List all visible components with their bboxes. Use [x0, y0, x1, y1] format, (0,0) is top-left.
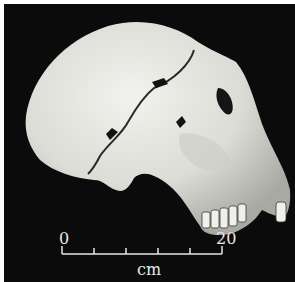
skull-photograph: [4, 4, 295, 282]
scale-end-label: 20: [216, 231, 236, 247]
skull-illustration: [4, 4, 295, 282]
scale-bar: [62, 246, 222, 254]
cranium-shape: [26, 22, 291, 235]
figure: 0 20 cm: [0, 0, 295, 282]
scale-unit-label: cm: [137, 262, 161, 278]
scale-start-label: 0: [59, 231, 69, 247]
